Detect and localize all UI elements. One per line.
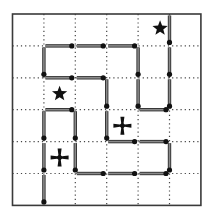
matchstick[interactable] [41, 175, 46, 204]
cross-icon [113, 117, 131, 135]
match-head [167, 72, 172, 77]
match-head [101, 171, 106, 176]
match-head [69, 43, 74, 48]
match-head [41, 199, 46, 204]
matchstick[interactable] [41, 47, 46, 77]
matchstick[interactable] [41, 143, 46, 172]
matchstick[interactable] [140, 171, 169, 176]
matchstick[interactable] [140, 139, 169, 144]
match-head [41, 136, 46, 141]
matchstick[interactable] [167, 47, 172, 77]
matchstick[interactable] [167, 143, 172, 172]
cell-symbols [51, 20, 168, 166]
match-head [41, 167, 46, 172]
grid-lines [13, 14, 201, 205]
matchstick[interactable] [167, 79, 172, 108]
matchstick[interactable] [140, 107, 169, 112]
matchstick[interactable] [77, 171, 106, 176]
match-head [163, 171, 168, 176]
matchstick[interactable] [104, 111, 109, 141]
match-head [136, 72, 141, 77]
matchstick[interactable] [77, 43, 106, 48]
matchstick[interactable] [167, 16, 172, 46]
matchstick[interactable] [104, 79, 109, 108]
match-head [163, 107, 168, 112]
match-head [132, 139, 137, 144]
matchstick[interactable] [136, 79, 141, 108]
matchstick[interactable] [73, 111, 78, 141]
match-head [104, 104, 109, 109]
matchstick[interactable] [108, 171, 137, 176]
matchstick[interactable] [45, 43, 74, 48]
star-icon [52, 86, 67, 100]
matchstick[interactable] [108, 43, 137, 48]
match-head [69, 75, 74, 80]
matchstick-puzzle-board [0, 0, 214, 220]
match-head [132, 171, 137, 176]
matchstick[interactable] [45, 107, 74, 112]
match-head [101, 43, 106, 48]
match-head [73, 136, 78, 141]
cross-icon [51, 149, 69, 167]
matchstick[interactable] [41, 111, 46, 141]
matchstick[interactable] [77, 75, 106, 80]
matchstick[interactable] [45, 75, 74, 80]
matchstick[interactable] [108, 139, 137, 144]
matchstick[interactable] [73, 143, 78, 172]
star-icon [152, 20, 167, 34]
matchstick[interactable] [136, 47, 141, 77]
match-head [167, 40, 172, 45]
